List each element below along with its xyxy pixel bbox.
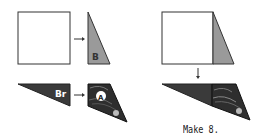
label-br: Br (55, 89, 67, 99)
combined-bottom (162, 84, 250, 120)
combined-gray-triangle (213, 12, 234, 64)
label-b: B (92, 52, 99, 62)
label-a: A (98, 94, 104, 102)
triangle-a: A (88, 84, 127, 122)
caption-text: Make 8. (183, 124, 219, 135)
diagram-svg: B Br A (0, 0, 260, 140)
arrow-right-icon (74, 93, 85, 97)
small-circle-icon (113, 110, 119, 116)
small-circle-icon (236, 108, 242, 114)
arrow-right-icon (74, 37, 85, 41)
square-combined (162, 12, 213, 64)
square-top-left (18, 12, 70, 64)
diagram-canvas: B Br A (0, 0, 260, 140)
arrow-down-icon (196, 68, 200, 79)
